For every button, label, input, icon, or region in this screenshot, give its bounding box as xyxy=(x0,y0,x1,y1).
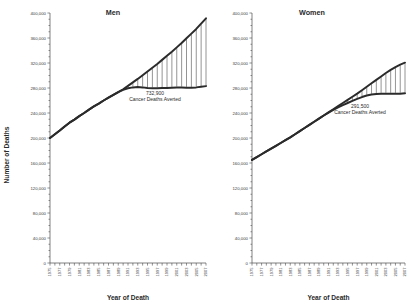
x-tick-label: 1977 xyxy=(57,267,62,277)
x-tick-label: 1989 xyxy=(116,267,121,277)
y-tick-label: 0 xyxy=(44,261,47,266)
x-tick-label: 1983 xyxy=(86,267,91,277)
x-tick-label: 1989 xyxy=(316,267,321,277)
y-tick-label: 160,000 xyxy=(30,161,46,166)
actual-deaths-curve xyxy=(50,86,206,138)
annotation-value: 291,500 xyxy=(351,103,369,109)
y-tick-label: 320,000 xyxy=(232,61,248,66)
axis-lines xyxy=(50,13,206,263)
y-tick-label: 400,000 xyxy=(232,11,248,16)
y-tick-label: 240,000 xyxy=(232,111,248,116)
y-tick-label: 280,000 xyxy=(30,86,46,91)
y-tick-label: 200,000 xyxy=(232,136,248,141)
y-tick-label: 40,000 xyxy=(235,236,249,241)
x-tick-label: 2005 xyxy=(393,267,398,277)
figure-container: 040,00080,000120,000160,000200,000240,00… xyxy=(0,0,411,308)
x-tick-label: 2007 xyxy=(402,267,407,277)
axis-lines xyxy=(252,13,405,263)
x-axis-title: Year of Death xyxy=(307,294,349,301)
x-tick-label: 1983 xyxy=(288,267,293,277)
chart-panel-men: 040,00080,000120,000160,000200,000240,00… xyxy=(30,8,208,301)
x-tick-label: 1979 xyxy=(269,267,274,277)
x-tick-label: 1975 xyxy=(47,267,52,277)
x-tick-label: 1981 xyxy=(278,267,283,277)
chart-canvas: 040,00080,000120,000160,000200,000240,00… xyxy=(0,0,411,308)
x-tick-label: 1977 xyxy=(259,267,264,277)
x-tick-label: 1999 xyxy=(364,267,369,277)
actual-deaths-curve xyxy=(252,93,405,160)
x-tick-label: 1985 xyxy=(297,267,302,277)
x-tick-label: 1993 xyxy=(135,267,140,277)
y-tick-label: 120,000 xyxy=(232,186,248,191)
x-tick-label: 1985 xyxy=(96,267,101,277)
x-tick-label: 2007 xyxy=(203,267,208,277)
x-tick-label: 1975 xyxy=(249,267,254,277)
y-tick-label: 160,000 xyxy=(232,161,248,166)
x-tick-label: 1999 xyxy=(164,267,169,277)
y-tick-label: 120,000 xyxy=(30,186,46,191)
x-tick-label: 1987 xyxy=(106,267,111,277)
x-tick-label: 1993 xyxy=(335,267,340,277)
y-tick-label: 0 xyxy=(246,261,249,266)
annotation-value: 732,900 xyxy=(146,90,164,96)
y-tick-label: 320,000 xyxy=(30,61,46,66)
x-tick-label: 1997 xyxy=(355,267,360,277)
x-tick-label: 1997 xyxy=(155,267,160,277)
y-tick-label: 80,000 xyxy=(33,211,47,216)
annotation-label: Cancer Deaths Averted xyxy=(334,109,386,115)
y-tick-label: 240,000 xyxy=(30,111,46,116)
y-tick-label: 400,000 xyxy=(30,11,46,16)
panel-title: Men xyxy=(106,8,120,17)
x-tick-label: 1991 xyxy=(125,267,130,277)
y-tick-label: 280,000 xyxy=(232,86,248,91)
x-axis-title: Year of Death xyxy=(107,294,149,301)
y-tick-label: 360,000 xyxy=(232,36,248,41)
chart-panel-women: 040,00080,000120,000160,000200,000240,00… xyxy=(232,8,407,301)
x-tick-label: 2005 xyxy=(194,267,199,277)
panel-title: Women xyxy=(299,8,325,17)
annotation-label: Cancer Deaths Averted xyxy=(129,96,181,102)
x-tick-label: 1995 xyxy=(345,267,350,277)
y-tick-label: 200,000 xyxy=(30,136,46,141)
x-tick-label: 2001 xyxy=(174,267,179,277)
x-tick-label: 1991 xyxy=(326,267,331,277)
y-axis-title: Number of Deaths xyxy=(3,126,10,183)
x-tick-label: 2003 xyxy=(184,267,189,277)
y-tick-label: 360,000 xyxy=(30,36,46,41)
x-tick-label: 1979 xyxy=(67,267,72,277)
x-tick-label: 1995 xyxy=(145,267,150,277)
y-tick-label: 40,000 xyxy=(33,236,47,241)
y-tick-label: 80,000 xyxy=(235,211,249,216)
x-tick-label: 1981 xyxy=(77,267,82,277)
x-tick-label: 2003 xyxy=(383,267,388,277)
x-tick-label: 1987 xyxy=(307,267,312,277)
x-tick-label: 2001 xyxy=(374,267,379,277)
